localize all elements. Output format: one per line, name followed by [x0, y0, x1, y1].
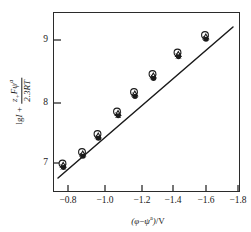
y-tick-label-9: 9: [32, 35, 48, 45]
figure-container: 9 8 7 −0.8 −1.0 −1.2 −1.4 −1.6 −1.8 (φ−ψ…: [0, 0, 251, 232]
data-point-cluster: [114, 108, 121, 118]
y-title-psi: ψ: [9, 83, 19, 89]
y-title-z: z: [9, 98, 19, 102]
y-title-current: I: [14, 114, 24, 117]
data-point-cluster: [79, 149, 86, 159]
x-title-unit: /V: [156, 216, 165, 226]
data-point-cluster: [149, 71, 156, 81]
x-tick-label-2: −1.2: [128, 196, 156, 206]
x-tick-label-3: −1.4: [159, 196, 187, 206]
x-axis-title: (φ−ψa)/V: [63, 214, 233, 226]
data-point-cluster: [59, 160, 66, 170]
data-point-cluster: [174, 49, 181, 59]
x-tick-label-1: −1.0: [91, 196, 119, 206]
data-point-cluster: [202, 32, 209, 42]
data-markers: [59, 32, 209, 171]
y-title-fraction: z+Fψa 2.3RT: [7, 78, 32, 104]
x-axis-ticks: [68, 185, 238, 192]
x-tick-label-5: −1.8: [224, 196, 251, 206]
x-tick-label-4: −1.6: [192, 196, 220, 206]
data-point-cluster: [131, 89, 138, 99]
y-tick-label-8: 8: [32, 98, 48, 108]
y-axis-ticks: [53, 40, 61, 163]
y-title-lead: lg: [14, 117, 24, 124]
y-title-plus: +: [14, 107, 24, 112]
y-title-psi-superscript: a: [7, 80, 14, 83]
data-point-cluster: [94, 131, 101, 141]
y-title-F: F: [9, 89, 19, 95]
x-tick-label-0: −0.8: [54, 196, 82, 206]
y-tick-label-7: 7: [32, 158, 48, 168]
y-axis-title: lgI + z+Fψa 2.3RT: [7, 41, 32, 161]
y-title-denominator: 2.3RT: [22, 78, 32, 104]
y-title-z-subscript: +: [14, 94, 21, 98]
y-title-numerator: z+Fψa: [7, 78, 22, 104]
